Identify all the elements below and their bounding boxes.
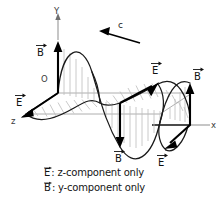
vector-label-e-origin: E: [16, 97, 22, 108]
caption-text-e: : z-component only: [51, 166, 144, 180]
propagation-label-c: c: [118, 20, 123, 30]
caption-text-b: : y-component only: [52, 181, 145, 195]
vector-overbar-icon: [44, 180, 52, 185]
caption-line-e: E : z-component only: [44, 166, 194, 181]
vector-e-origin-z: E: [15, 93, 58, 118]
vector-b-mid-down: B: [114, 103, 125, 164]
vector-label-b-mid: B: [115, 153, 122, 164]
em-wave-figure: Y x z O: [0, 0, 223, 210]
caption-block: E : z-component only B : y-component onl…: [44, 166, 194, 196]
vector-b-origin-up: B: [36, 41, 62, 93]
propagation-arrow-c: c: [99, 20, 140, 43]
vector-e-mid-up: E: [120, 62, 162, 104]
caption-line-b: B : y-component only: [44, 181, 194, 196]
vector-b-right-up: B: [186, 68, 204, 126]
caption-symbol-e: E: [44, 166, 51, 180]
vector-label-b-right: B: [194, 71, 201, 82]
vector-label-e-mid: E: [152, 65, 158, 76]
vector-e-right-down: E: [157, 125, 190, 168]
caption-symbol-b: B: [44, 181, 52, 195]
vector-overbar-icon: [44, 165, 52, 170]
vector-label-b-origin: B: [37, 47, 44, 58]
